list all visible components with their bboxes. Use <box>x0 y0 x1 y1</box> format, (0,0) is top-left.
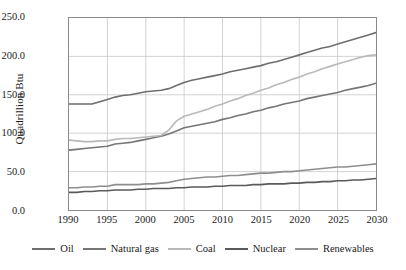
x-axis-tick-label: 2030 <box>355 214 399 226</box>
legend-item-label: Oil <box>60 243 73 255</box>
legend-item-nuclear[interactable]: Nuclear <box>225 243 286 255</box>
legend-item-renewables[interactable]: Renewables <box>295 243 374 255</box>
plot-area <box>68 17 377 211</box>
legend-item-label: Nuclear <box>253 243 286 255</box>
x-axis-tick-label: 2005 <box>162 214 206 226</box>
y-axis-title: Quadrillion Btu <box>8 0 30 218</box>
legend-line-swatch <box>168 248 191 250</box>
x-axis-tick-label: 2020 <box>278 214 322 226</box>
y-axis-tick-label: 0.0 <box>0 206 25 216</box>
legend-item-natural-gas[interactable]: Natural gas <box>83 243 159 255</box>
chart-legend: OilNatural gasCoalNuclearRenewables <box>0 243 406 255</box>
x-axis-tick-label: 2000 <box>123 214 167 226</box>
y-axis-tick-label: 50.0 <box>0 167 25 177</box>
legend-line-swatch <box>295 248 318 250</box>
legend-item-coal[interactable]: Coal <box>168 243 216 255</box>
legend-line-swatch <box>225 248 248 250</box>
x-axis-tick-label: 2025 <box>316 214 360 226</box>
legend-item-oil[interactable]: Oil <box>32 243 73 255</box>
y-axis-tick-label: 150.0 <box>0 90 25 100</box>
legend-item-label: Renewables <box>323 243 374 255</box>
series-line-coal <box>69 55 376 142</box>
line-chart-figure: Quadrillion Btu 0.050.0100.0150.0200.025… <box>0 0 406 270</box>
series-line-renewables <box>69 164 376 188</box>
legend-line-swatch <box>32 248 55 250</box>
legend-item-label: Natural gas <box>111 243 159 255</box>
x-axis-tick-label: 1995 <box>85 214 129 226</box>
y-axis-tick-label: 100.0 <box>0 128 25 138</box>
legend-line-swatch <box>83 248 106 250</box>
series-lines <box>69 18 376 210</box>
x-axis-tick-label: 2010 <box>201 214 245 226</box>
y-axis-tick-label: 200.0 <box>0 51 25 61</box>
legend-item-label: Coal <box>196 243 216 255</box>
x-axis-tick-label: 1990 <box>46 214 90 226</box>
x-axis-tick-label: 2015 <box>239 214 283 226</box>
y-axis-tick-label: 250.0 <box>0 12 25 22</box>
